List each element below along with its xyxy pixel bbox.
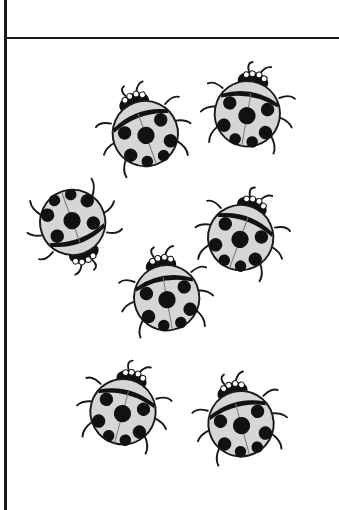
ladybug-icon xyxy=(65,349,183,467)
ladybug-icon xyxy=(181,361,299,479)
header-rule-line xyxy=(4,37,339,39)
ladybug-icon xyxy=(110,238,221,349)
left-border-line xyxy=(4,0,7,510)
ladybug-icon xyxy=(192,54,303,165)
